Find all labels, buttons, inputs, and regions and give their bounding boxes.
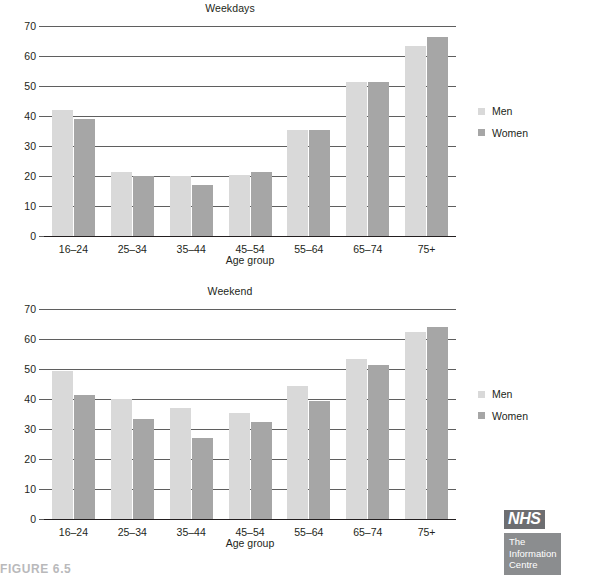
bar-men bbox=[405, 46, 426, 237]
bar-groups: 16–2425–3435–4445–5455–6465–7475+ bbox=[44, 309, 456, 519]
y-tick-label-40: 40 bbox=[24, 111, 36, 122]
bar-women bbox=[192, 438, 213, 519]
bar-men bbox=[346, 359, 367, 520]
bar-group: 25–34 bbox=[103, 26, 162, 236]
figure-caption: FIGURE 6.5 bbox=[0, 562, 71, 576]
y-tick-label-60: 60 bbox=[24, 51, 36, 62]
bar-group: 45–54 bbox=[221, 309, 280, 519]
bar-women bbox=[133, 176, 154, 236]
legend-label: Women bbox=[492, 411, 528, 422]
bar-women bbox=[192, 185, 213, 236]
bar-men bbox=[170, 176, 191, 236]
y-tick-label-20: 20 bbox=[24, 171, 36, 182]
y-tick-label-50: 50 bbox=[24, 81, 36, 92]
bar-men bbox=[52, 371, 73, 520]
gridline-0 bbox=[44, 236, 456, 237]
bar-women bbox=[309, 401, 330, 520]
bar-women bbox=[133, 419, 154, 520]
bar-group: 55–64 bbox=[279, 309, 338, 519]
bar-group: 35–44 bbox=[162, 309, 221, 519]
nhs-sub-line-2: Information bbox=[509, 548, 556, 560]
bar-men bbox=[346, 82, 367, 237]
y-tick-label-70: 70 bbox=[24, 21, 36, 32]
bar-men bbox=[287, 130, 308, 237]
legend-weekdays: MenWomen bbox=[478, 106, 528, 149]
legend-swatch-icon bbox=[478, 391, 485, 398]
legend-item-women: Women bbox=[478, 128, 528, 139]
y-tick-label-10: 10 bbox=[24, 484, 36, 495]
y-tick-mark-0 bbox=[39, 236, 44, 237]
nhs-information-centre-block: The Information Centre bbox=[504, 533, 561, 575]
y-tick-label-0: 0 bbox=[30, 231, 36, 242]
legend-label: Men bbox=[492, 106, 512, 117]
bar-women bbox=[427, 327, 448, 519]
y-tick-label-40: 40 bbox=[24, 394, 36, 405]
legend-swatch-icon bbox=[478, 108, 485, 115]
legend-item-men: Men bbox=[478, 106, 528, 117]
bar-men bbox=[229, 413, 250, 520]
legend-item-women: Women bbox=[478, 411, 528, 422]
y-tick-label-10: 10 bbox=[24, 201, 36, 212]
bar-men bbox=[287, 386, 308, 520]
bar-men bbox=[52, 110, 73, 236]
bar-men bbox=[111, 172, 132, 237]
chart-title-weekdays: Weekdays bbox=[0, 2, 460, 14]
x-axis-title-weekend: Age group bbox=[44, 537, 456, 549]
x-axis-title-weekdays: Age group bbox=[44, 254, 456, 266]
y-tick-label-30: 30 bbox=[24, 424, 36, 435]
legend-swatch-icon bbox=[478, 129, 485, 136]
bar-groups: 16–2425–3435–4445–5455–6465–7475+ bbox=[44, 26, 456, 236]
legend-weekend: MenWomen bbox=[478, 389, 528, 432]
bar-group: 25–34 bbox=[103, 309, 162, 519]
nhs-sub-line-3: Centre bbox=[509, 559, 556, 571]
nhs-wordmark: NHS bbox=[504, 510, 545, 529]
legend-label: Women bbox=[492, 128, 528, 139]
bar-women bbox=[368, 365, 389, 520]
bar-men bbox=[405, 332, 426, 520]
bar-group: 16–24 bbox=[44, 309, 103, 519]
nhs-logo: NHS The Information Centre bbox=[504, 510, 588, 575]
bar-group: 16–24 bbox=[44, 26, 103, 236]
bar-men bbox=[229, 175, 250, 237]
bar-women bbox=[251, 422, 272, 520]
y-tick-label-60: 60 bbox=[24, 334, 36, 345]
y-tick-label-50: 50 bbox=[24, 364, 36, 375]
bar-women bbox=[74, 395, 95, 520]
y-tick-label-70: 70 bbox=[24, 304, 36, 315]
bar-group: 65–74 bbox=[338, 26, 397, 236]
bar-group: 75+ bbox=[397, 309, 456, 519]
y-tick-label-0: 0 bbox=[30, 514, 36, 525]
legend-label: Men bbox=[492, 389, 512, 400]
plot-area-weekend: 01020304050607016–2425–3435–4445–5455–64… bbox=[44, 309, 456, 519]
bar-women bbox=[368, 82, 389, 237]
gridline-0 bbox=[44, 519, 456, 520]
legend-swatch-icon bbox=[478, 412, 485, 419]
bar-group: 65–74 bbox=[338, 309, 397, 519]
bar-group: 35–44 bbox=[162, 26, 221, 236]
bar-men bbox=[111, 399, 132, 519]
bar-group: 45–54 bbox=[221, 26, 280, 236]
plot-area-weekdays: 01020304050607016–2425–3435–4445–5455–64… bbox=[44, 26, 456, 236]
bar-women bbox=[309, 130, 330, 237]
bar-women bbox=[427, 37, 448, 237]
bar-women bbox=[74, 119, 95, 236]
chart-title-weekend: Weekend bbox=[0, 285, 460, 297]
y-tick-label-20: 20 bbox=[24, 454, 36, 465]
nhs-sub-line-1: The bbox=[509, 536, 556, 548]
bar-women bbox=[251, 172, 272, 237]
chart-panel-weekdays: Weekdays Percentage 01020304050607016–24… bbox=[0, 0, 598, 272]
y-tick-mark-0 bbox=[39, 519, 44, 520]
bar-group: 55–64 bbox=[279, 26, 338, 236]
legend-item-men: Men bbox=[478, 389, 528, 400]
bar-men bbox=[170, 408, 191, 519]
bar-group: 75+ bbox=[397, 26, 456, 236]
y-tick-label-30: 30 bbox=[24, 141, 36, 152]
